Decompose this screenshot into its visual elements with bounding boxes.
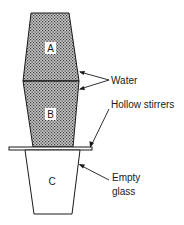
glass-b-label: B — [47, 109, 54, 120]
arrowhead-icon — [79, 71, 85, 75]
arrowhead-icon — [79, 86, 85, 90]
glass-c-label: C — [48, 176, 55, 187]
hollow-stirrers-arrow — [90, 109, 110, 148]
hollow-stirrers-label: Hollow stirrers — [111, 99, 174, 110]
water-label: Water — [111, 75, 138, 86]
water-arrows — [79, 71, 109, 90]
diagram-canvas: A B C Water Hollow stirrers Empty glass — [0, 0, 184, 225]
empty-glass-arrow — [79, 164, 110, 180]
glass-a: A — [23, 13, 79, 81]
arrowhead-icon — [79, 164, 86, 169]
glass-b: B — [23, 81, 79, 147]
glass-c: C — [25, 150, 80, 214]
glass-a-label: A — [47, 43, 54, 54]
empty-glass-label-line2: glass — [112, 186, 135, 197]
empty-glass-label-line1: Empty — [112, 172, 140, 183]
